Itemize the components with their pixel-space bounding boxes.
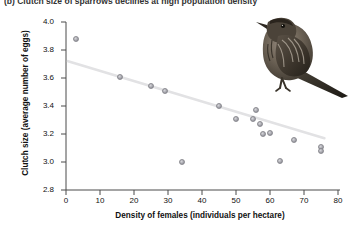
- x-tick-40: 40: [191, 196, 213, 205]
- y-tick-3.0: 3.0: [32, 157, 54, 167]
- data-point: [257, 121, 263, 127]
- data-point: [233, 116, 239, 122]
- y-tick-3.8: 3.8: [32, 45, 54, 55]
- y-axis-label: Clutch size (average number of eggs): [21, 16, 31, 191]
- data-point: [260, 131, 266, 137]
- y-tick-3.6: 3.6: [32, 73, 54, 83]
- x-tick-30: 30: [157, 196, 179, 205]
- data-point: [253, 107, 259, 113]
- data-point: [162, 88, 168, 94]
- data-point: [179, 159, 185, 165]
- data-point: [117, 74, 123, 80]
- x-axis-label: Density of females (individuals per hect…: [56, 211, 344, 221]
- x-tick-10: 10: [89, 196, 111, 205]
- figure-panel: (b) Clutch size of sparrows declines at …: [0, 0, 350, 231]
- y-tick-2.8: 2.8: [32, 185, 54, 195]
- x-tick-60: 60: [259, 196, 281, 205]
- data-point: [216, 103, 222, 109]
- data-point: [267, 130, 273, 136]
- sparrow-illustration: [236, 12, 350, 98]
- data-point: [250, 116, 256, 122]
- data-point: [73, 36, 79, 42]
- x-tick-80: 80: [327, 196, 349, 205]
- data-point: [291, 137, 297, 143]
- x-tick-0: 0: [55, 196, 77, 205]
- y-tick-4.0: 4.0: [32, 17, 54, 27]
- x-tick-50: 50: [225, 196, 247, 205]
- data-point: [148, 83, 154, 89]
- data-point: [277, 158, 283, 164]
- x-tick-20: 20: [123, 196, 145, 205]
- y-tick-3.2: 3.2: [32, 129, 54, 139]
- x-tick-70: 70: [293, 196, 315, 205]
- y-tick-3.4: 3.4: [32, 101, 54, 111]
- data-point: [318, 148, 324, 154]
- figure-caption: (b) Clutch size of sparrows declines at …: [4, 0, 350, 6]
